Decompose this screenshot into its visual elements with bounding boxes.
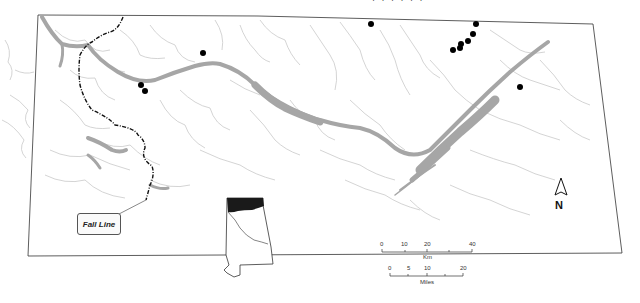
scale-km-tick-10: 10 [401, 241, 408, 247]
site-dot [457, 45, 463, 51]
site-dot [517, 84, 523, 90]
map-canvas [0, 0, 640, 303]
scale-km-tick-20: 20 [424, 241, 431, 247]
site-dot [465, 38, 471, 44]
scale-mi-tick-20: 20 [460, 265, 467, 271]
site-dot [473, 21, 479, 27]
scale-mi-tick-0: 0 [388, 265, 391, 271]
scale-mi-tick-10: 10 [424, 265, 431, 271]
fall-line-label: Fall Line [77, 213, 121, 235]
site-dot [450, 47, 456, 53]
site-dot [368, 21, 374, 27]
scale-km-tick-0: 0 [380, 241, 383, 247]
site-dot [138, 82, 144, 88]
site-dot [142, 88, 148, 94]
scale-km-tick-40: 40 [469, 241, 476, 247]
scale-mi-tick-5: 5 [407, 265, 410, 271]
scale-mi-unit: Miles [420, 279, 434, 285]
site-dot [470, 31, 476, 37]
cut-off-title: · · · · · · [372, 0, 425, 5]
site-markers [138, 21, 523, 94]
scale-km-unit: Km [423, 254, 432, 260]
fall-line [79, 17, 153, 200]
site-dot [200, 50, 206, 56]
north-arrow-icon [555, 178, 567, 195]
fall-line-leader [119, 200, 146, 214]
inset-alabama [224, 198, 273, 277]
north-label: N [555, 199, 563, 211]
